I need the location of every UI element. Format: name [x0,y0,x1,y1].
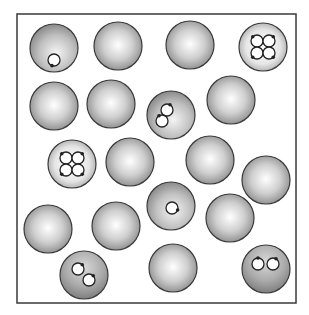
particle [166,21,214,69]
particle [92,202,140,250]
sphere [92,202,140,250]
sphere [242,245,290,293]
particle-four-loop [48,140,96,188]
particle [106,138,154,186]
particle-diagram [0,0,309,315]
particle-two-loop [147,91,195,139]
particle-four-loop [239,23,287,71]
sphere [186,136,234,184]
electron-orbit-icon [166,202,178,214]
particle [206,194,254,242]
electron-dot-icon [176,208,180,212]
electron-dot-icon [60,152,64,156]
electron-dot-icon [80,172,84,176]
sphere [206,194,254,242]
particle [24,205,72,253]
electron-dot-icon [274,257,278,261]
electron-dot-icon [251,35,255,39]
electron-orbit-icon [48,54,60,66]
sphere [24,205,72,253]
electron-dot-icon [256,256,260,260]
particle [87,80,135,128]
electron-dot-icon [251,55,255,59]
sphere [48,140,96,188]
electron-dot-icon [60,172,64,176]
electron-dot-icon [168,103,172,107]
electron-dot-icon [271,35,275,39]
particles-group [24,21,290,299]
electron-dot-icon [91,274,95,278]
sphere [239,23,287,71]
particle [94,22,142,70]
particle [242,156,290,204]
electron-dot-icon [157,114,161,118]
sphere [106,138,154,186]
sphere [60,251,108,299]
sphere [94,22,142,70]
electron-dot-icon [271,55,275,59]
particle-one-loop [30,24,78,72]
electron-dot-icon [80,152,84,156]
particle [30,82,78,130]
particle [186,136,234,184]
particle [207,76,255,124]
sphere [87,80,135,128]
sphere [166,21,214,69]
sphere [30,82,78,130]
sphere [207,76,255,124]
sphere [242,156,290,204]
particle-two-loop [242,245,290,293]
particle [149,244,197,292]
sphere [149,244,197,292]
particle-one-loop [147,182,195,230]
particle-two-loop [60,251,108,299]
electron-dot-icon [80,263,84,267]
electron-dot-icon [50,64,54,68]
